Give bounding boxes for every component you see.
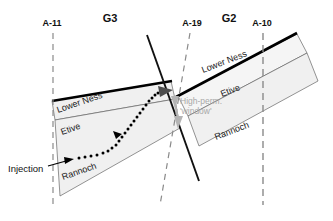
geological-cross-section-figure: G3 G2 A-11 A-19 A-10 Lower Ness Etive Ra… <box>0 0 333 221</box>
well-label-a-11: A-11 <box>42 18 61 28</box>
well-label-a-19: A-19 <box>182 18 202 28</box>
high-perm-label-line2: 'window' <box>180 106 212 116</box>
high-perm-label-line1: High-perm. <box>180 96 222 106</box>
block-label-g2: G2 <box>222 12 237 24</box>
well-label-a-10: A-10 <box>252 18 272 28</box>
cross-section-canvas: G3 G2 A-11 A-19 A-10 Lower Ness Etive Ra… <box>0 0 333 221</box>
injection-label: Injection <box>8 163 43 174</box>
block-label-g3: G3 <box>103 12 118 24</box>
